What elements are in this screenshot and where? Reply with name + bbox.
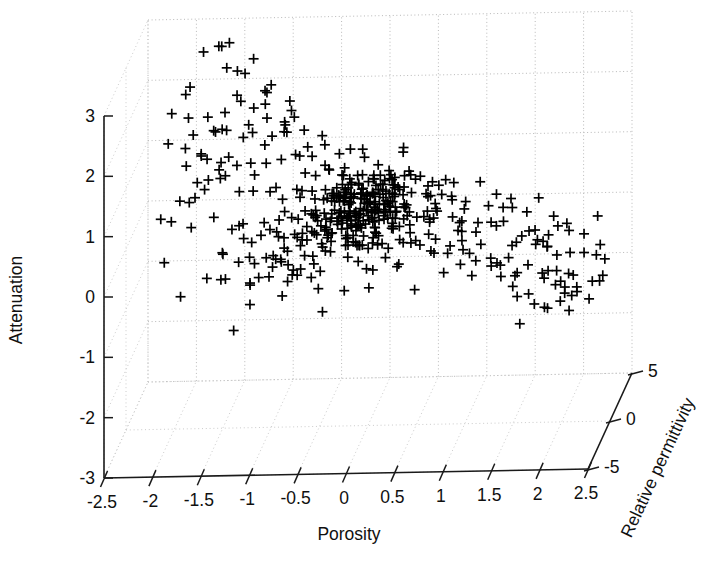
- x-tick: [149, 470, 156, 486]
- x-tick-label: -0.5: [281, 488, 311, 508]
- data-point-marker: [245, 300, 255, 310]
- grid-left-depth: [104, 141, 148, 237]
- x-tick: [488, 464, 495, 480]
- data-point-marker: [232, 66, 242, 76]
- data-point-marker: [364, 283, 374, 293]
- data-point-marker: [216, 275, 226, 285]
- data-point-marker: [359, 231, 369, 241]
- data-point-marker: [261, 158, 271, 168]
- x-tick-label: -2.5: [87, 492, 117, 512]
- data-point-marker: [431, 203, 441, 213]
- data-point-marker: [317, 307, 327, 317]
- data-point-marker: [448, 212, 458, 222]
- data-point-marker: [166, 217, 176, 227]
- x-tick-label: 1.5: [477, 485, 501, 505]
- data-point-marker: [249, 259, 259, 269]
- data-point-marker: [256, 230, 266, 240]
- data-point-marker: [506, 194, 516, 204]
- data-point-marker: [424, 229, 434, 239]
- data-point-marker: [405, 228, 415, 238]
- data-point-marker: [218, 249, 228, 259]
- x-axis-title: Porosity: [317, 524, 380, 544]
- x-tick: [536, 463, 543, 479]
- grid-floor-horizontal: [126, 421, 610, 430]
- data-point-marker: [512, 292, 522, 302]
- figure-3d-scatter: 3210-1-2-3-2.5-2-1.5-1-0.500.511.522.550…: [0, 0, 703, 570]
- x-tick: [343, 467, 350, 483]
- data-point-marker: [361, 264, 371, 274]
- z-tick: [606, 419, 621, 423]
- data-point-marker: [455, 218, 465, 228]
- data-point-marker: [496, 271, 506, 281]
- data-point-marker: [309, 228, 319, 238]
- data-point-marker: [277, 291, 287, 301]
- data-point-marker: [192, 178, 202, 188]
- data-point-marker: [340, 163, 350, 173]
- data-point-marker: [406, 238, 416, 248]
- data-point-marker: [392, 262, 402, 272]
- data-point-marker: [209, 126, 219, 136]
- data-point-marker: [156, 214, 166, 224]
- data-point-marker: [345, 144, 355, 154]
- data-point-marker: [300, 168, 310, 178]
- grid-left-depth: [104, 261, 148, 357]
- data-point-marker: [180, 144, 190, 154]
- data-point-marker: [163, 139, 173, 149]
- x-tick: [246, 468, 253, 484]
- data-point-marker: [471, 227, 481, 237]
- x-tick-label: -1.5: [184, 490, 214, 510]
- data-point-marker: [572, 282, 582, 292]
- x-tick: [197, 469, 204, 485]
- data-point-marker: [368, 265, 378, 275]
- data-point-marker: [203, 112, 213, 122]
- data-point-marker: [279, 233, 289, 243]
- data-point-marker: [399, 143, 409, 153]
- x-tick-label: -1: [239, 489, 255, 509]
- data-point-marker: [287, 270, 297, 280]
- x-tick: [439, 465, 446, 481]
- data-point-marker: [183, 113, 193, 123]
- data-point-marker: [562, 218, 572, 228]
- data-point-marker: [565, 247, 575, 257]
- data-point-marker: [280, 207, 290, 217]
- data-point-marker: [552, 266, 562, 276]
- data-point-marker: [473, 218, 483, 228]
- data-point-marker: [507, 203, 517, 213]
- data-point-marker: [317, 131, 327, 141]
- data-point-marker: [475, 177, 485, 187]
- x-tick-label: 2: [533, 484, 543, 504]
- data-point-marker: [262, 113, 272, 123]
- data-point-marker: [410, 285, 420, 295]
- z-tick-label: -5: [604, 457, 620, 477]
- data-point-marker: [457, 236, 467, 246]
- data-point-marker: [400, 171, 410, 181]
- data-point-marker: [484, 201, 494, 211]
- x-tick: [294, 467, 301, 483]
- data-point-marker: [321, 214, 331, 224]
- data-point-marker: [320, 140, 330, 150]
- data-point-marker: [532, 235, 542, 245]
- data-point-marker: [319, 208, 329, 218]
- x-tick-label: 0: [339, 488, 349, 508]
- data-point-marker: [175, 196, 185, 206]
- data-point-marker: [232, 160, 242, 170]
- data-point-marker: [358, 144, 368, 154]
- data-point-marker: [293, 214, 303, 224]
- data-point-marker: [309, 259, 319, 269]
- data-point-marker: [222, 125, 232, 135]
- data-point-marker: [297, 186, 307, 196]
- data-point-marker: [383, 243, 393, 253]
- y-tick-label: 3: [85, 106, 95, 126]
- data-point-marker: [307, 151, 317, 161]
- data-point-marker: [260, 99, 270, 109]
- data-point-marker: [467, 271, 477, 281]
- data-point-marker: [273, 232, 283, 242]
- data-point-marker: [272, 227, 282, 237]
- data-point-marker: [461, 197, 471, 207]
- data-point-marker: [184, 198, 194, 208]
- data-point-marker: [260, 140, 270, 150]
- data-point-marker: [246, 158, 256, 168]
- data-point-marker: [190, 193, 200, 203]
- data-point-marker: [524, 226, 534, 236]
- data-point-marker: [373, 160, 383, 170]
